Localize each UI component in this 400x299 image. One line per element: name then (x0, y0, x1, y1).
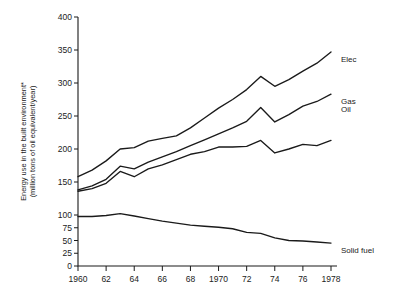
x-tick-label: 72 (242, 274, 252, 284)
y-axis-title-line1: Energy use in the built environment* (19, 82, 28, 201)
chart-canvas: 4003503002502001501007550250196062646668… (0, 0, 400, 299)
y-tick-label: 300 (58, 78, 72, 88)
series-label-solid-fuel: Solid fuel (341, 246, 374, 255)
x-tick-label: 1960 (69, 274, 88, 284)
y-tick-label: 50 (63, 236, 73, 246)
series-line-oil (78, 140, 331, 191)
y-tick-label: 350 (58, 45, 72, 55)
y-tick-label: 25 (63, 248, 73, 258)
x-tick-label: 62 (101, 274, 111, 284)
y-axis-title: Energy use in the built environment*(mil… (19, 82, 37, 201)
x-tick-label: 1978 (322, 274, 341, 284)
y-tick-label: 150 (58, 177, 72, 187)
energy-use-line-chart: 4003503002502001501007550250196062646668… (0, 0, 400, 299)
x-tick-label: 1970 (209, 274, 228, 284)
series-label-elec: Elec (341, 55, 357, 64)
y-axis-title-line2: (million tons of oil equivalent/year) (28, 86, 37, 198)
x-tick-label: 74 (270, 274, 280, 284)
x-tick-label: 66 (158, 274, 168, 284)
series-label-oil: Oil (341, 105, 351, 114)
y-tick-label: 200 (58, 144, 72, 154)
y-tick-label: 250 (58, 111, 72, 121)
y-tick-label: 400 (58, 12, 72, 22)
axis-lines (78, 17, 337, 266)
x-tick-label: 68 (186, 274, 196, 284)
y-tick-label: 75 (63, 223, 73, 233)
series-line-elec (78, 52, 331, 177)
y-tick-label: 100 (58, 210, 72, 220)
y-tick-label: 0 (67, 261, 72, 271)
series-line-solid-fuel (78, 214, 331, 243)
x-tick-label: 64 (129, 274, 139, 284)
x-tick-label: 76 (298, 274, 308, 284)
